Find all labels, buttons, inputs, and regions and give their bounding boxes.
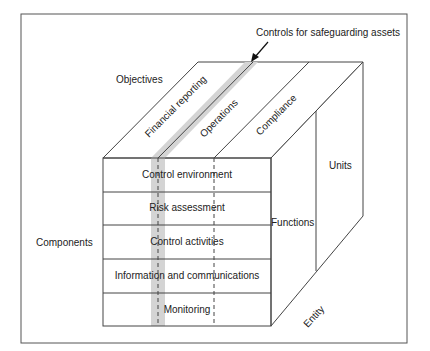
objectives-axis-label: Objectives: [116, 74, 163, 86]
callout-label: Controls for safeguarding assets: [256, 27, 400, 39]
component-risk-assessment: Risk assessment: [103, 202, 271, 214]
functions-axis-label: Functions: [271, 217, 314, 229]
components-axis-label: Components: [36, 237, 93, 249]
units-axis-label: Units: [329, 160, 352, 172]
component-information-communications: Information and communications: [103, 270, 271, 282]
component-monitoring: Monitoring: [103, 304, 271, 316]
component-control-environment: Control environment: [103, 169, 271, 181]
component-control-activities: Control activities: [103, 236, 271, 248]
